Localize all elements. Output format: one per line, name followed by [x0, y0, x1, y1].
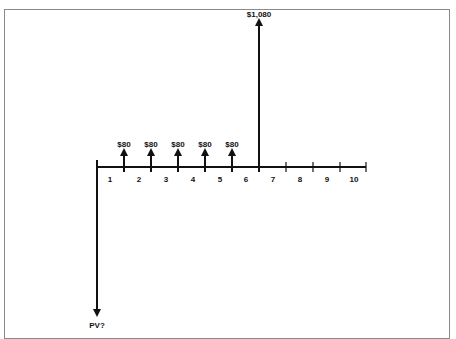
period-label: 1: [108, 175, 113, 184]
principal-label: $1,080: [247, 10, 272, 19]
period-labels: 1 2 3 4 5 6 7 8 9 10: [108, 175, 359, 184]
period-label: 5: [218, 175, 223, 184]
inflow-label: $80: [144, 140, 158, 149]
period-label: 7: [271, 175, 276, 184]
coupon-labels: $80 $80 $80 $80 $80: [117, 140, 239, 149]
period-label: 10: [350, 175, 359, 184]
period-label: 2: [137, 175, 142, 184]
period-label: 8: [298, 175, 303, 184]
coupon-arrows: [124, 152, 232, 172]
inflow-label: $80: [117, 140, 131, 149]
period-label: 4: [191, 175, 196, 184]
inflow-label: $80: [225, 140, 239, 149]
period-label: 9: [325, 175, 330, 184]
inflow-label: $80: [198, 140, 212, 149]
period-label: 6: [244, 175, 249, 184]
pv-label: PV?: [89, 321, 105, 330]
inflow-label: $80: [171, 140, 185, 149]
period-label: 3: [164, 175, 169, 184]
